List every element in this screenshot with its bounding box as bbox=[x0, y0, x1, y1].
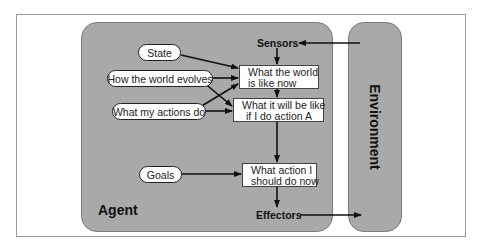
how-world-evolves-node: How the world evolves bbox=[107, 70, 213, 87]
world-if-action-box: What it will be like if I do action A bbox=[233, 98, 324, 122]
action-choice-line2: should do now bbox=[251, 176, 316, 187]
what-my-actions-do-node: What my actions do bbox=[112, 103, 206, 120]
arrow-state-to-world-now bbox=[181, 55, 238, 68]
sensors-label: Sensors bbox=[257, 37, 298, 49]
agent-label: Agent bbox=[98, 202, 138, 218]
world-if-action-line2: if I do action A bbox=[242, 111, 323, 122]
state-node: State bbox=[138, 44, 181, 61]
world-now-box: What the world is like now bbox=[239, 65, 319, 89]
action-choice-box: What action I should do now bbox=[242, 163, 317, 187]
goals-node: Goals bbox=[139, 166, 182, 183]
effectors-label: Effectors bbox=[256, 209, 302, 221]
environment-label: Environment bbox=[367, 84, 383, 170]
world-now-line2: is like now bbox=[248, 78, 318, 89]
connector-arrows bbox=[0, 0, 485, 248]
